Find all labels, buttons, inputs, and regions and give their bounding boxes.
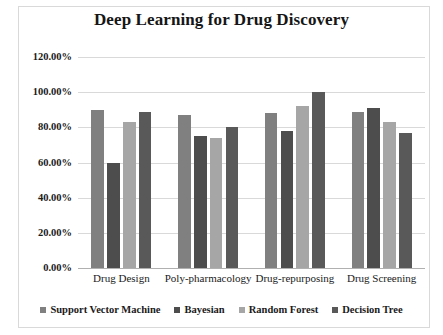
legend-swatch-icon [174, 307, 180, 313]
x-axis-line [78, 268, 425, 269]
legend-item[interactable]: Bayesian [174, 304, 224, 315]
legend-item[interactable]: Support Vector Machine [40, 304, 160, 315]
y-axis-tick-labels: 0.00%20.00%40.00%60.00%80.00%100.00%120.… [0, 0, 72, 335]
legend-label: Bayesian [184, 304, 224, 315]
x-axis-category-label: Poly-pharmacology [165, 272, 252, 284]
chart-container: Deep Learning for Drug Discovery 0.00%20… [0, 0, 443, 335]
x-axis-category-label: Drug-repurposing [252, 272, 339, 284]
bar [265, 113, 278, 268]
legend-label: Random Forest [249, 304, 319, 315]
gridline [78, 92, 425, 93]
y-axis-tick-label: 40.00% [38, 192, 72, 203]
bar [210, 138, 223, 268]
x-axis-category-label: Drug Design [78, 272, 165, 284]
chart-legend: Support Vector MachineBayesianRandom For… [0, 304, 443, 315]
legend-swatch-icon [332, 307, 338, 313]
bar [383, 122, 396, 268]
bar [139, 112, 152, 268]
bar [226, 127, 239, 268]
legend-swatch-icon [40, 307, 46, 313]
bar [312, 92, 325, 268]
y-axis-tick-label: 60.00% [38, 157, 72, 168]
bar [296, 106, 309, 268]
y-axis-tick-label: 100.00% [33, 87, 72, 98]
bar [178, 115, 191, 268]
legend-label: Support Vector Machine [50, 304, 160, 315]
x-axis-category-label: Drug Screening [338, 272, 425, 284]
y-axis-tick-label: 0.00% [43, 263, 72, 274]
plot-area [78, 57, 425, 268]
bar [367, 108, 380, 268]
bar [91, 110, 104, 268]
y-axis-tick-label: 120.00% [33, 52, 72, 63]
bar [352, 112, 365, 268]
bar [107, 163, 120, 269]
y-axis-tick-label: 20.00% [38, 228, 72, 239]
y-axis-tick-label: 80.00% [38, 122, 72, 133]
bar [399, 133, 412, 268]
bar [123, 122, 136, 268]
bar [194, 136, 207, 268]
legend-label: Decision Tree [342, 304, 402, 315]
legend-item[interactable]: Decision Tree [332, 304, 402, 315]
gridline [78, 57, 425, 58]
legend-swatch-icon [239, 307, 245, 313]
legend-item[interactable]: Random Forest [239, 304, 319, 315]
bar [281, 131, 294, 268]
